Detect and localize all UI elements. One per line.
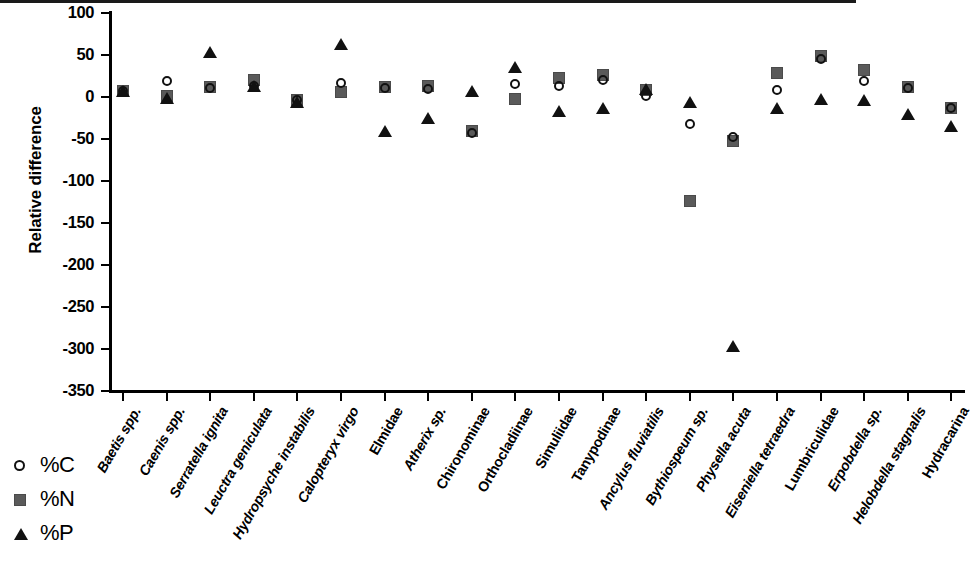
y-axis-tick <box>101 12 110 14</box>
data-point-pct-P-10 <box>552 105 566 117</box>
x-axis-tick <box>253 392 255 401</box>
x-axis-tick <box>166 392 168 401</box>
data-point-pct-C-16 <box>816 54 826 64</box>
x-axis-tick <box>558 392 560 401</box>
data-point-pct-C-1 <box>162 76 172 86</box>
x-axis-tick <box>907 392 909 401</box>
y-axis-tick <box>101 138 110 140</box>
data-point-pct-C-15 <box>772 85 782 95</box>
x-axis-tick <box>602 392 604 401</box>
x-axis-label-4: Hydropsyche instabilis <box>229 404 318 542</box>
data-point-pct-N-13 <box>684 195 696 207</box>
y-axis-tick-label: -350 <box>36 381 94 400</box>
y-axis-tick-label: -150 <box>36 213 94 232</box>
x-axis-tick <box>514 392 516 401</box>
x-axis-label-6: Elmidae <box>365 404 405 458</box>
y-axis-tick-label: -250 <box>36 297 94 316</box>
data-point-pct-C-7 <box>423 84 433 94</box>
data-point-pct-P-4 <box>290 96 304 108</box>
x-axis-tick <box>122 392 124 401</box>
data-point-pct-C-10 <box>554 81 564 91</box>
data-point-pct-P-6 <box>378 125 392 137</box>
y-axis-tick <box>101 390 110 392</box>
x-axis-tick <box>820 392 822 401</box>
data-point-pct-P-2 <box>203 46 217 58</box>
y-axis-tick <box>101 96 110 98</box>
data-point-pct-C-13 <box>685 119 695 129</box>
data-point-pct-C-17 <box>859 76 869 86</box>
data-point-pct-C-18 <box>903 83 913 93</box>
zero-reference-line <box>0 0 856 3</box>
data-point-pct-P-17 <box>857 94 871 106</box>
y-axis-tick-label: 0 <box>36 87 94 106</box>
data-point-pct-P-18 <box>901 108 915 120</box>
data-point-pct-P-14 <box>726 340 740 352</box>
data-point-pct-N-15 <box>771 67 783 79</box>
data-point-pct-N-17 <box>858 64 870 76</box>
y-axis-tick-label: -100 <box>36 171 94 190</box>
data-point-pct-P-13 <box>683 96 697 108</box>
y-axis-tick-label: -300 <box>36 339 94 358</box>
y-axis-tick-label: 50 <box>36 45 94 64</box>
data-point-pct-P-7 <box>421 112 435 124</box>
data-point-pct-C-6 <box>380 83 390 93</box>
y-axis-tick-label: -50 <box>36 129 94 148</box>
x-axis-tick <box>689 392 691 401</box>
x-axis-label-10: Simuliidae <box>532 404 580 471</box>
x-axis-tick <box>950 392 952 401</box>
y-axis-tick <box>101 222 110 224</box>
x-axis-tick <box>732 392 734 401</box>
x-axis-tick <box>296 392 298 401</box>
data-point-pct-P-8 <box>465 85 479 97</box>
x-axis-tick <box>384 392 386 401</box>
data-point-pct-N-9 <box>509 93 521 105</box>
y-axis-tick <box>101 54 110 56</box>
x-axis-line <box>109 390 965 393</box>
data-point-pct-C-11 <box>598 75 608 85</box>
data-point-pct-P-1 <box>160 92 174 104</box>
y-axis-line <box>109 11 112 392</box>
y-axis-tick-label: 100 <box>36 3 94 22</box>
data-point-pct-C-8 <box>467 128 477 138</box>
x-axis-tick <box>471 392 473 401</box>
legend-label: %N <box>40 486 74 512</box>
y-axis-tick <box>101 348 110 350</box>
data-point-pct-P-3 <box>247 80 261 92</box>
x-axis-tick <box>645 392 647 401</box>
data-point-pct-P-11 <box>596 102 610 114</box>
x-axis-tick <box>863 392 865 401</box>
legend-label: %P <box>40 520 73 546</box>
data-point-pct-P-5 <box>334 38 348 50</box>
data-point-pct-N-5 <box>335 86 347 98</box>
x-axis-tick <box>776 392 778 401</box>
data-point-pct-C-9 <box>510 79 520 89</box>
y-axis-tick <box>101 180 110 182</box>
data-point-pct-P-9 <box>508 61 522 73</box>
x-axis-label-7: Atherix sp. <box>400 404 449 473</box>
data-point-pct-P-19 <box>944 120 958 132</box>
x-axis-tick <box>340 392 342 401</box>
data-point-pct-P-15 <box>770 102 784 114</box>
y-axis-tick <box>101 264 110 266</box>
y-axis-tick-label: -200 <box>36 255 94 274</box>
x-axis-tick <box>427 392 429 401</box>
data-point-pct-P-0 <box>116 85 130 97</box>
x-axis-label-0: Baetis spp. <box>94 404 144 475</box>
data-point-pct-P-16 <box>814 93 828 105</box>
x-axis-tick <box>209 392 211 401</box>
y-axis-tick <box>101 306 110 308</box>
legend-label: %C <box>40 452 74 478</box>
data-point-pct-P-12 <box>639 83 653 95</box>
